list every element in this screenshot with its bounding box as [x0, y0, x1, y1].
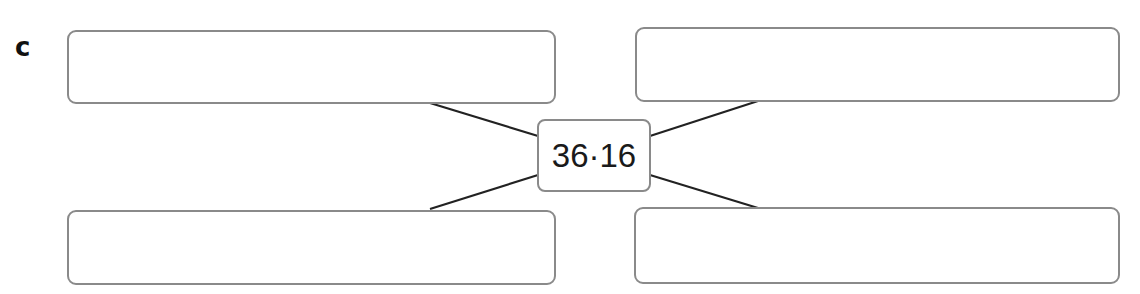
- answer-box-bottom-right[interactable]: [634, 207, 1120, 284]
- center-number-box: 36·16: [537, 119, 651, 192]
- answer-box-bottom-left[interactable]: [67, 210, 556, 285]
- question-label: c: [15, 34, 30, 60]
- center-number: 36·16: [552, 137, 636, 175]
- connector-bottom-left: [430, 175, 538, 209]
- connector-top-left: [430, 103, 538, 136]
- connector-top-right: [650, 101, 758, 136]
- answer-box-top-left[interactable]: [67, 30, 556, 104]
- answer-box-top-right[interactable]: [635, 27, 1120, 102]
- connector-bottom-right: [650, 175, 758, 208]
